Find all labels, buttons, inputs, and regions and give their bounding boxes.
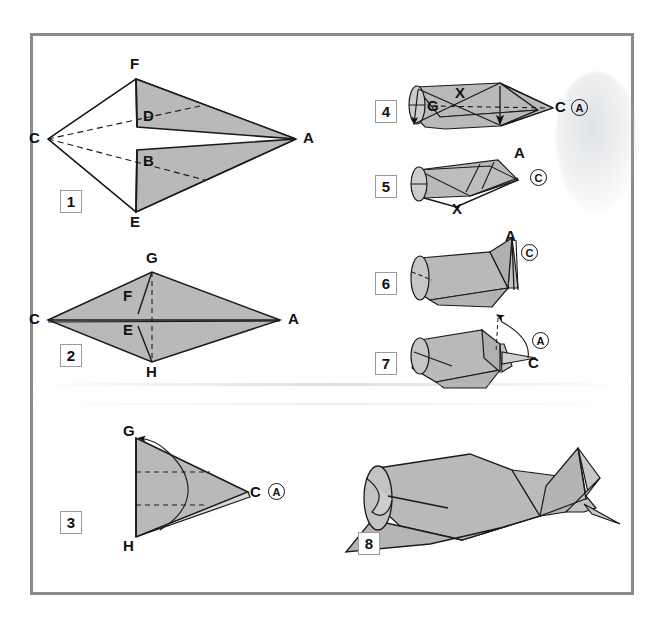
label-step3-H: H <box>123 538 134 553</box>
step-2-figure <box>48 272 280 362</box>
step-number-3: 3 <box>60 511 82 534</box>
circled-label-step3-A: A <box>268 483 285 500</box>
label-step5-X: X <box>452 201 462 216</box>
label-step1-C: C <box>29 130 40 145</box>
step-6-figure <box>411 238 518 307</box>
step-7-figure <box>411 315 536 388</box>
label-step4-C: C <box>555 99 566 114</box>
label-step3-C: C <box>250 484 261 499</box>
label-step2-C: C <box>29 311 40 326</box>
circled-label-step6-C: C <box>521 244 538 261</box>
label-step1-F: F <box>130 56 139 71</box>
label-step6-A: A <box>505 228 516 243</box>
step-5-figure <box>411 160 518 207</box>
step-8-figure <box>346 448 620 552</box>
label-step2-A: A <box>288 311 299 326</box>
circled-label-step4-A: A <box>571 99 588 116</box>
circled-label-step5-C: C <box>530 169 547 186</box>
label-step1-A: A <box>303 130 314 145</box>
label-step4-X: X <box>455 85 465 100</box>
label-step7-C: C <box>528 355 539 370</box>
step-number-7: 7 <box>375 352 397 375</box>
label-step2-E: E <box>123 322 133 337</box>
label-step1-B: B <box>143 153 154 168</box>
step-number-5: 5 <box>375 175 397 198</box>
origami-diagram-canvas <box>0 0 672 621</box>
step-3-figure <box>136 438 250 537</box>
label-step2-G: G <box>146 250 158 265</box>
label-step1-E: E <box>130 214 140 229</box>
label-step2-H: H <box>146 364 157 379</box>
circled-label-step7-A: A <box>532 332 549 349</box>
label-step5-A: A <box>514 145 525 160</box>
step-number-6: 6 <box>375 272 397 295</box>
label-step2-F: F <box>123 288 132 303</box>
label-step3-G: G <box>123 423 135 438</box>
step-number-2: 2 <box>60 344 82 367</box>
step-number-4: 4 <box>375 100 397 123</box>
step-1-figure <box>48 79 296 212</box>
step-number-8: 8 <box>358 532 380 555</box>
label-step4-G: G <box>427 98 439 113</box>
step-number-1: 1 <box>60 190 82 213</box>
label-step1-D: D <box>143 108 154 123</box>
